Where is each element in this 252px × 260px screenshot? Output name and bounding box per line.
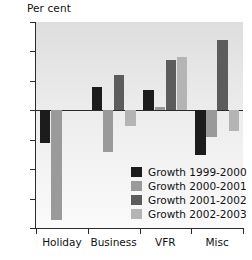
legend-item-label: Growth 1999-2000 bbox=[148, 167, 247, 178]
bar bbox=[114, 75, 125, 110]
x-tick-mark bbox=[88, 228, 89, 234]
bar bbox=[143, 90, 154, 111]
bar bbox=[229, 110, 240, 131]
y-axis-title: Per cent bbox=[27, 2, 71, 14]
legend-swatch-icon bbox=[131, 209, 142, 219]
bar bbox=[166, 60, 177, 110]
x-tick-mark bbox=[140, 228, 141, 234]
legend-item-label: Growth 2001-2002 bbox=[148, 195, 247, 206]
y-tick-mark bbox=[30, 51, 36, 52]
x-tick-mark bbox=[36, 228, 37, 234]
bar bbox=[177, 57, 188, 110]
bar-chart: Per cent 151050–5–10–15–20 HolidayBusine… bbox=[0, 0, 252, 260]
bar bbox=[125, 110, 136, 126]
y-tick-mark bbox=[30, 22, 36, 23]
legend-item-label: Growth 2000-2001 bbox=[148, 181, 247, 192]
y-tick-mark bbox=[30, 110, 36, 111]
bar bbox=[40, 110, 51, 142]
bar bbox=[51, 110, 62, 219]
x-tick-mark bbox=[191, 228, 192, 234]
bar bbox=[217, 40, 228, 111]
x-tick-mark bbox=[243, 228, 244, 234]
x-tick-label: Holiday bbox=[42, 236, 81, 248]
legend-item: Growth 2001-2002 bbox=[131, 194, 247, 206]
bar bbox=[155, 107, 166, 110]
legend-item: Growth 2000-2001 bbox=[131, 180, 247, 192]
y-tick-mark bbox=[30, 81, 36, 82]
legend-swatch-icon bbox=[131, 195, 142, 205]
x-tick-label: VFR bbox=[155, 236, 176, 248]
legend-item: Growth 1999-2000 bbox=[131, 166, 247, 178]
x-tick-label: Misc bbox=[206, 236, 229, 248]
legend-swatch-icon bbox=[131, 167, 142, 177]
y-tick-mark bbox=[30, 169, 36, 170]
legend-item-label: Growth 2002-2003 bbox=[148, 209, 247, 220]
bar bbox=[92, 87, 103, 111]
bar bbox=[195, 110, 206, 155]
y-tick-mark bbox=[30, 140, 36, 141]
bar bbox=[206, 110, 217, 137]
y-tick-mark bbox=[30, 199, 36, 200]
bar bbox=[103, 110, 114, 152]
legend-item: Growth 2002-2003 bbox=[131, 208, 247, 220]
chart-legend: Growth 1999-2000Growth 2000-2001Growth 2… bbox=[131, 166, 247, 220]
legend-swatch-icon bbox=[131, 181, 142, 191]
x-tick-label: Business bbox=[90, 236, 136, 248]
